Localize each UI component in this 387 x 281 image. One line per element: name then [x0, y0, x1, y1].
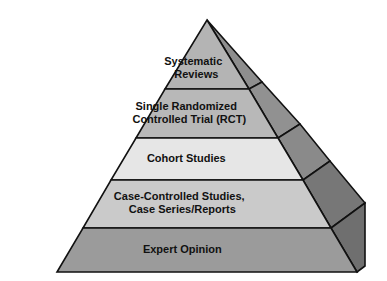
- tier-label-3: Cohort Studies: [147, 152, 247, 164]
- tier-label-5: Expert Opinion: [143, 243, 243, 255]
- tier-label-4: Case-Controlled Studies, Case Series/Rep…: [114, 190, 272, 215]
- tier-label-1: Systematic Reviews: [164, 55, 250, 80]
- evidence-pyramid-figure: Systematic Reviews Single Randomized Con…: [0, 0, 387, 281]
- tier-label-2: Single Randomized Controlled Trial (RCT): [132, 100, 267, 125]
- pyramid-diagram: Systematic Reviews Single Randomized Con…: [0, 0, 387, 281]
